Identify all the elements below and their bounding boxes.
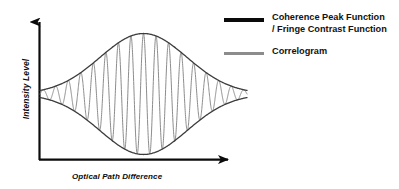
correlogram-curve (40, 34, 247, 154)
legend-swatch-coherence-icon (224, 18, 264, 22)
curves-group (40, 34, 247, 155)
coherence-peak-upper-envelope (40, 34, 247, 91)
legend: Coherence Peak Function / Fringe Contras… (224, 12, 396, 69)
x-axis-label: Optical Path Difference (72, 172, 162, 181)
correlogram-figure: Intensity Level Optical Path Difference … (0, 0, 399, 189)
legend-label-coherence-peak-function: Coherence Peak Function / Fringe Contras… (272, 12, 387, 35)
legend-label-correlogram: Correlogram (272, 46, 327, 58)
legend-item-correlogram: Correlogram (224, 46, 396, 58)
legend-item-coherence-peak-function: Coherence Peak Function / Fringe Contras… (224, 12, 396, 35)
legend-swatch-correlogram-icon (224, 52, 264, 55)
legend-swatch-coherence-wrap (224, 12, 272, 22)
coherence-peak-lower-envelope (40, 98, 247, 155)
legend-swatch-correlogram-wrap (224, 46, 272, 55)
y-axis-label: Intensity Level (21, 47, 31, 131)
